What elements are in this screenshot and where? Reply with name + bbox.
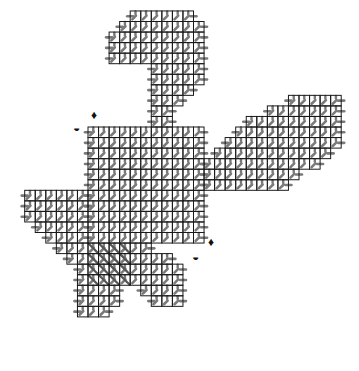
stitch <box>175 163 179 167</box>
stitch <box>164 37 168 41</box>
stitch <box>132 47 136 51</box>
stitch <box>322 142 326 146</box>
stitch <box>269 184 273 188</box>
stitch <box>122 227 126 231</box>
half-circle-marker-top-icon: ◒ <box>73 122 80 134</box>
stitch <box>143 37 147 41</box>
stitch <box>111 195 115 199</box>
stitch <box>312 121 316 125</box>
stitch <box>164 290 168 294</box>
stitch <box>175 174 179 178</box>
stitch <box>185 132 189 136</box>
stitch <box>175 227 179 231</box>
stitch <box>185 163 189 167</box>
stitch <box>90 311 94 315</box>
stitch <box>333 100 337 104</box>
stitch <box>322 111 326 115</box>
stitch <box>37 216 41 220</box>
stitch <box>153 37 157 41</box>
stitch <box>259 121 263 125</box>
stitch <box>291 174 295 178</box>
stitch <box>143 142 147 146</box>
stitch <box>291 111 295 115</box>
stitch <box>164 163 168 167</box>
stitch <box>101 142 105 146</box>
stitch <box>80 227 84 231</box>
stitch <box>101 163 105 167</box>
stitch <box>153 47 157 51</box>
stitch <box>111 132 115 136</box>
stitch <box>333 111 337 115</box>
stitch <box>69 248 73 252</box>
stitch <box>132 132 136 136</box>
stitch <box>132 279 136 283</box>
stitch <box>80 248 84 252</box>
stitch <box>132 142 136 146</box>
stitch <box>164 206 168 210</box>
stitch <box>153 174 157 178</box>
stitch <box>37 206 41 210</box>
stitch <box>132 153 136 157</box>
stitch <box>132 26 136 30</box>
stitch <box>80 216 84 220</box>
stitch <box>111 216 115 220</box>
stitch <box>269 163 273 167</box>
stitch <box>143 258 147 262</box>
stitch <box>164 47 168 51</box>
stitch <box>164 79 168 83</box>
stitch <box>175 216 179 220</box>
stitch <box>175 90 179 94</box>
stitch <box>80 237 84 241</box>
stitch <box>322 132 326 136</box>
stitch <box>269 153 273 157</box>
stitch <box>196 68 200 72</box>
stitch <box>164 58 168 62</box>
stitch <box>153 16 157 20</box>
stitch <box>269 121 273 125</box>
stitch <box>69 206 73 210</box>
stitch <box>122 142 126 146</box>
stitch <box>132 237 136 241</box>
stitch <box>69 227 73 231</box>
stitch <box>185 174 189 178</box>
stitch <box>132 206 136 210</box>
stitch <box>122 206 126 210</box>
stitch <box>132 184 136 188</box>
stitch <box>217 174 221 178</box>
stitch <box>196 132 200 136</box>
stitch <box>185 195 189 199</box>
stitch <box>48 227 52 231</box>
stitch <box>175 269 179 273</box>
stitch <box>101 237 105 241</box>
stitch <box>248 153 252 157</box>
stitch <box>301 100 305 104</box>
stitch <box>175 142 179 146</box>
stitch <box>164 184 168 188</box>
stitch <box>227 163 231 167</box>
stitch <box>185 142 189 146</box>
stitch <box>238 184 242 188</box>
stitch <box>185 153 189 157</box>
stitch <box>143 132 147 136</box>
stitch <box>132 216 136 220</box>
stitch <box>175 206 179 210</box>
stitch <box>101 301 105 305</box>
stitch <box>132 163 136 167</box>
stitch <box>196 47 200 51</box>
stitch <box>153 290 157 294</box>
stitch <box>291 163 295 167</box>
stitch <box>132 37 136 41</box>
stitch <box>185 37 189 41</box>
stitch <box>143 195 147 199</box>
stitch <box>196 195 200 199</box>
stitch <box>280 142 284 146</box>
stitch <box>153 269 157 273</box>
stitch <box>259 142 263 146</box>
stitch <box>132 227 136 231</box>
stitch <box>185 58 189 62</box>
stitch <box>259 184 263 188</box>
stitch <box>196 142 200 146</box>
stitch <box>175 153 179 157</box>
diamond-marker-top-icon: ♦ <box>91 109 97 121</box>
stitch <box>312 163 316 167</box>
